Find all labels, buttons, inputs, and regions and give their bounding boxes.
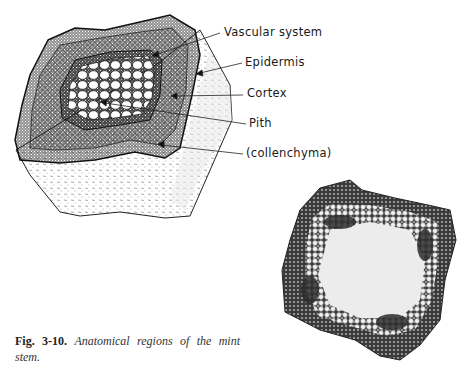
label-pith: Pith <box>249 116 272 130</box>
stem-block-drawing <box>15 15 246 218</box>
figure-number: Fig. 3-10. <box>15 334 67 348</box>
label-collenchyma: (collenchyma) <box>246 146 332 160</box>
stem-cross-section-photo <box>282 180 456 360</box>
label-epidermis: Epidermis <box>245 55 305 69</box>
label-cortex: Cortex <box>247 86 287 100</box>
label-vascular-system: Vascular system <box>224 25 322 39</box>
figure-illustrations <box>0 0 469 372</box>
figure-caption: Fig. 3-10. Anatomical regions of the min… <box>15 333 240 365</box>
